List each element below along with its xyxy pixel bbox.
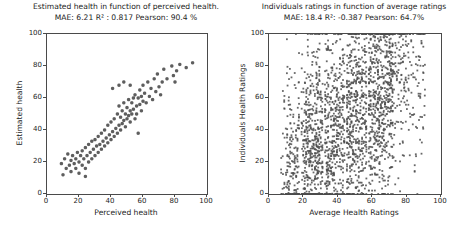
left-plot-subtitle: MAE: 6.21 R² : 0.817 Pearson: 90.4 % — [55, 13, 197, 23]
y-tick-label: 80 — [22, 61, 42, 69]
y-tick-label: 40 — [22, 125, 42, 133]
y-tick-label: 20 — [22, 157, 42, 165]
y-tick-mark — [265, 129, 268, 130]
x-tick-label: 20 — [74, 197, 83, 205]
figure: Estimated health in function of perceive… — [0, 0, 470, 229]
x-tick-mark — [268, 194, 269, 197]
x-tick-label: 60 — [367, 197, 376, 205]
y-tick-mark — [43, 161, 46, 162]
x-tick-mark — [78, 194, 79, 197]
x-tick-label: 40 — [106, 197, 115, 205]
x-tick-mark — [206, 194, 207, 197]
x-tick-label: 0 — [266, 197, 270, 205]
x-tick-label: 0 — [44, 197, 48, 205]
x-tick-mark — [337, 194, 338, 197]
right-scatter-canvas — [269, 34, 441, 194]
x-tick-label: 80 — [170, 197, 179, 205]
y-tick-label: 20 — [244, 157, 264, 165]
y-tick-label: 60 — [244, 93, 264, 101]
right-plot-subtitle: MAE: 18.4 R²: -0.387 Pearson: 64.7% — [284, 13, 424, 23]
x-tick-label: 60 — [138, 197, 147, 205]
x-tick-mark — [406, 194, 407, 197]
y-tick-mark — [43, 33, 46, 34]
y-tick-label: 100 — [22, 29, 42, 37]
left-y-axis-label: Estimated health — [15, 81, 24, 146]
y-tick-mark — [43, 129, 46, 130]
y-tick-mark — [265, 161, 268, 162]
y-tick-mark — [43, 65, 46, 66]
left-plot-title: Estimated health in function of perceive… — [33, 2, 219, 12]
x-tick-label: 20 — [298, 197, 307, 205]
left-scatter-canvas — [47, 34, 207, 194]
x-tick-mark — [110, 194, 111, 197]
y-tick-mark — [43, 193, 46, 194]
x-tick-label: 100 — [433, 197, 446, 205]
x-tick-mark — [302, 194, 303, 197]
x-tick-mark — [174, 194, 175, 197]
left-plot-area — [46, 33, 208, 195]
x-tick-mark — [440, 194, 441, 197]
y-tick-label: 0 — [244, 189, 264, 197]
x-tick-mark — [142, 194, 143, 197]
y-tick-mark — [265, 97, 268, 98]
y-tick-label: 100 — [244, 29, 264, 37]
x-tick-mark — [46, 194, 47, 197]
right-plot-title: Individuals ratings in function of avera… — [262, 2, 447, 12]
right-x-axis-label: Average Health Ratings — [309, 208, 398, 217]
y-tick-mark — [265, 33, 268, 34]
x-tick-label: 100 — [199, 197, 212, 205]
y-tick-mark — [43, 97, 46, 98]
y-tick-mark — [265, 193, 268, 194]
left-x-axis-label: Perceived health — [94, 208, 157, 217]
right-y-axis-label: Individuals Health Ratings — [238, 63, 247, 162]
y-tick-label: 60 — [22, 93, 42, 101]
y-tick-label: 0 — [22, 189, 42, 197]
y-tick-mark — [265, 65, 268, 66]
y-tick-label: 40 — [244, 125, 264, 133]
y-tick-label: 80 — [244, 61, 264, 69]
right-plot-area — [268, 33, 442, 195]
x-tick-label: 40 — [332, 197, 341, 205]
x-tick-mark — [371, 194, 372, 197]
x-tick-label: 80 — [401, 197, 410, 205]
